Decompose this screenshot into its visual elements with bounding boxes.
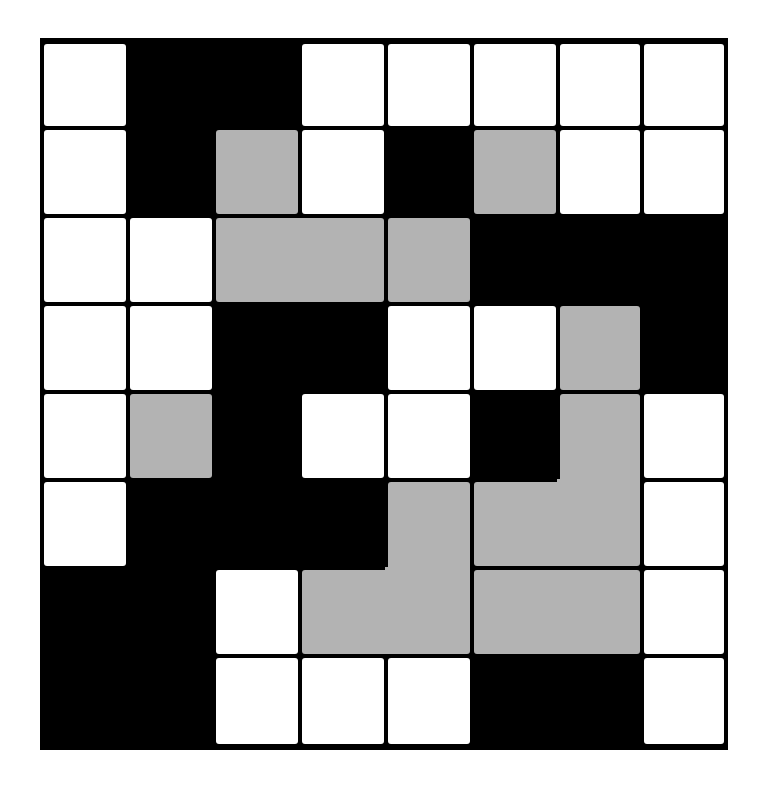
- gray-piece-8[interactable]: [302, 570, 387, 654]
- white-cell[interactable]: [44, 44, 126, 126]
- white-cell[interactable]: [44, 482, 126, 566]
- white-cell[interactable]: [130, 218, 212, 302]
- white-cell[interactable]: [644, 130, 724, 214]
- white-cell[interactable]: [644, 394, 724, 478]
- white-cell[interactable]: [302, 44, 384, 126]
- white-cell[interactable]: [474, 306, 556, 390]
- gray-piece-2[interactable]: [474, 130, 556, 214]
- gray-piece-7[interactable]: [557, 479, 640, 566]
- gray-piece-9[interactable]: [557, 570, 640, 654]
- white-cell[interactable]: [560, 130, 640, 214]
- white-cell[interactable]: [44, 218, 126, 302]
- white-cell[interactable]: [44, 306, 126, 390]
- white-cell[interactable]: [644, 658, 724, 744]
- white-cell[interactable]: [302, 394, 384, 478]
- white-cell[interactable]: [44, 130, 126, 214]
- white-cell[interactable]: [216, 658, 298, 744]
- white-cell[interactable]: [644, 44, 724, 126]
- white-cell[interactable]: [388, 44, 470, 126]
- white-cell[interactable]: [130, 306, 212, 390]
- gray-piece-3[interactable]: [216, 218, 301, 302]
- gray-piece-4[interactable]: [388, 218, 470, 302]
- gray-piece-8[interactable]: [385, 567, 470, 654]
- white-cell[interactable]: [388, 306, 470, 390]
- white-cell[interactable]: [388, 394, 470, 478]
- white-cell[interactable]: [644, 570, 724, 654]
- gray-piece-3[interactable]: [299, 218, 384, 302]
- gray-piece-9[interactable]: [474, 570, 559, 654]
- white-cell[interactable]: [560, 44, 640, 126]
- gray-piece-6[interactable]: [130, 394, 212, 478]
- white-cell[interactable]: [474, 44, 556, 126]
- white-cell[interactable]: [302, 130, 384, 214]
- gray-piece-7[interactable]: [560, 394, 640, 481]
- white-cell[interactable]: [644, 482, 724, 566]
- white-cell[interactable]: [388, 658, 470, 744]
- white-cell[interactable]: [216, 570, 298, 654]
- gray-piece-7[interactable]: [474, 482, 559, 566]
- gray-piece-5[interactable]: [560, 306, 640, 390]
- white-cell[interactable]: [44, 394, 126, 478]
- gray-piece-1[interactable]: [216, 130, 298, 214]
- gray-piece-8[interactable]: [388, 482, 470, 569]
- puzzle-board: [0, 0, 758, 789]
- white-cell[interactable]: [302, 658, 384, 744]
